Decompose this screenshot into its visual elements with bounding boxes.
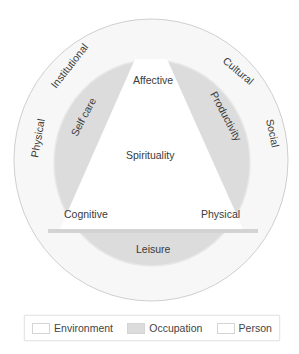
- person-swatch: [217, 323, 235, 334]
- legend-label: Environment: [54, 322, 113, 334]
- legend: Environment Occupation Person: [24, 315, 280, 341]
- legend-item-occupation: Occupation: [127, 322, 202, 334]
- occupation-swatch: [127, 323, 145, 334]
- cmop-diagram: Physical Institutional Cultural Social S…: [0, 0, 299, 354]
- legend-item-person: Person: [217, 322, 272, 334]
- legend-label: Occupation: [149, 322, 202, 334]
- person-label-spirituality: Spirituality: [126, 149, 175, 161]
- legend-item-environment: Environment: [32, 322, 113, 334]
- person-label-affective: Affective: [133, 74, 173, 86]
- person-label-physical: Physical: [201, 208, 240, 220]
- legend-label: Person: [239, 322, 272, 334]
- environment-swatch: [32, 323, 50, 334]
- base-bar: [48, 229, 258, 233]
- occ-label-leisure: Leisure: [136, 243, 171, 255]
- person-label-cognitive: Cognitive: [64, 208, 108, 220]
